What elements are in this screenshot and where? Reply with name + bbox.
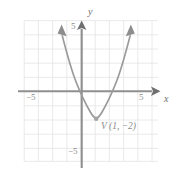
x-tick-label-neg5: −5 xyxy=(26,93,36,102)
vertex-label: V (1, −2) xyxy=(101,122,136,132)
y-tick-label-neg5: −5 xyxy=(68,147,78,156)
graph-figure: −5 5 5 −5 x y V (1, −2) xyxy=(0,0,177,171)
y-axis-label: y xyxy=(88,7,92,17)
coordinate-plane xyxy=(0,0,177,171)
x-tick-label-pos5: 5 xyxy=(139,93,144,102)
y-tick-label-pos5: 5 xyxy=(71,22,76,31)
vertex-point xyxy=(94,117,98,121)
x-axis-label: x xyxy=(164,94,168,104)
